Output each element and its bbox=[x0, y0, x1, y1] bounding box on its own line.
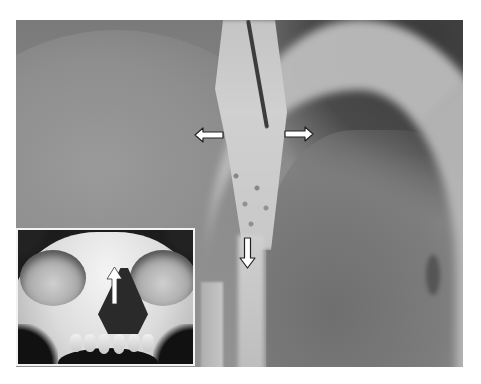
dark-spot bbox=[426, 255, 440, 295]
arrow-right-icon bbox=[284, 126, 314, 142]
tooth bbox=[113, 334, 125, 354]
tooth bbox=[84, 334, 96, 352]
left-orbit bbox=[20, 250, 86, 306]
arrow-left-icon bbox=[194, 127, 224, 143]
inset-shadow-br bbox=[153, 324, 193, 364]
tooth bbox=[98, 334, 110, 354]
arrow-up-icon bbox=[106, 266, 123, 305]
left-pillar bbox=[201, 282, 223, 367]
tooth bbox=[70, 334, 82, 352]
tooth bbox=[128, 334, 140, 352]
inset-skull-photo bbox=[16, 228, 195, 366]
arrow-down-icon bbox=[239, 237, 256, 269]
inset-shadow-bl bbox=[18, 324, 58, 364]
nodular-texture bbox=[224, 160, 284, 240]
